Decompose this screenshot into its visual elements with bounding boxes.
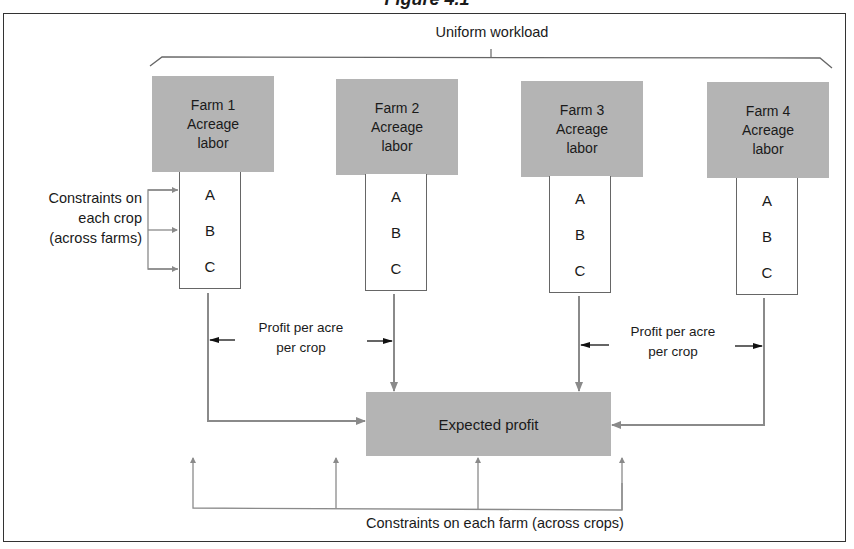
label-line: each crop: [10, 208, 142, 228]
crop-b: B: [575, 226, 585, 243]
crop-b: B: [205, 222, 215, 239]
farm-4-acreage: Acreage: [742, 121, 794, 140]
farm-2-labor: labor: [381, 137, 412, 156]
label-line: (across farms): [10, 228, 142, 248]
crop-c: C: [391, 260, 402, 277]
crop-constraints-label: Constraints on each crop (across farms): [10, 188, 142, 248]
farm-4-crops: A B C: [736, 178, 798, 295]
farm-1-crops: A B C: [179, 172, 241, 289]
farm-2-header: Farm 2 Acreage labor: [336, 79, 458, 175]
farm-1-acreage: Acreage: [187, 115, 239, 134]
farm-4-name: Farm 4: [746, 102, 790, 121]
farm-2-name: Farm 2: [375, 99, 419, 118]
crop-a: A: [575, 190, 585, 207]
farm-3-labor: labor: [566, 139, 597, 158]
label-line: Profit per acre: [236, 318, 366, 338]
label-line: per crop: [608, 342, 738, 362]
crop-c: C: [762, 264, 773, 281]
label-line: Constraints on: [10, 188, 142, 208]
profit-per-acre-label-right: Profit per acre per crop: [608, 322, 738, 362]
farm-2-acreage: Acreage: [371, 118, 423, 137]
label-line: Profit per acre: [608, 322, 738, 342]
farm-3-crops: A B C: [549, 176, 611, 293]
farm-3-name: Farm 3: [560, 101, 604, 120]
crop-c: C: [575, 262, 586, 279]
crop-b: B: [391, 224, 401, 241]
farm-1-name: Farm 1: [191, 96, 235, 115]
farm-1-header: Farm 1 Acreage labor: [152, 76, 274, 172]
crop-c: C: [205, 258, 216, 275]
crop-b: B: [762, 228, 772, 245]
crop-a: A: [391, 188, 401, 205]
profit-per-acre-label-left: Profit per acre per crop: [236, 318, 366, 358]
label-line: per crop: [236, 338, 366, 358]
crop-a: A: [762, 192, 772, 209]
farm-4-header: Farm 4 Acreage labor: [707, 82, 829, 178]
farm-2-crops: A B C: [365, 174, 427, 291]
farm-constraints-label: Constraints on each farm (across crops): [200, 513, 790, 533]
uniform-workload-label: Uniform workload: [312, 22, 672, 42]
farm-1-labor: labor: [197, 134, 228, 153]
farm-3-acreage: Acreage: [556, 120, 608, 139]
farm-4-labor: labor: [752, 140, 783, 159]
expected-profit-box: Expected profit: [366, 392, 611, 456]
farm-3-header: Farm 3 Acreage labor: [521, 81, 643, 177]
crop-a: A: [205, 186, 215, 203]
